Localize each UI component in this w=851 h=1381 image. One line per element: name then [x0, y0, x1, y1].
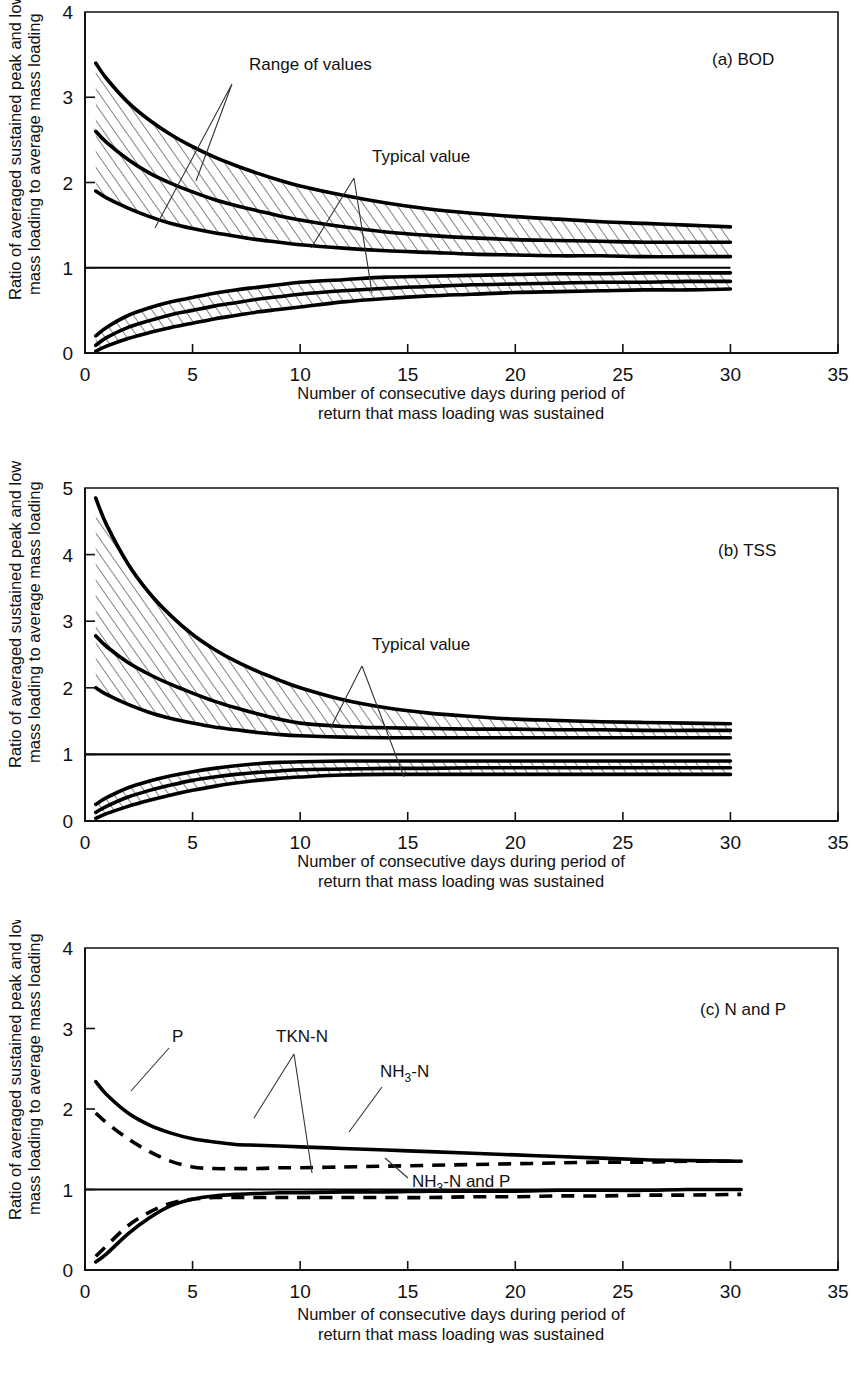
- x-tick-label: 35: [827, 832, 848, 853]
- annotation-range-of-values-label: Range of values: [249, 55, 372, 74]
- range-band-peak-b: [96, 498, 731, 738]
- leader-line-nh3-n: [349, 1087, 382, 1132]
- annotation-nh3-n-label: NH3-N: [380, 1062, 429, 1085]
- x-tick-label: 25: [612, 364, 633, 385]
- y-tick-label: 0: [62, 343, 73, 364]
- x-tick-label: 25: [612, 832, 633, 853]
- x-axis-caption-b: Number of consecutive days during period…: [297, 852, 625, 890]
- nh3-n-and-p-base: NH: [412, 1172, 437, 1191]
- x-axis-caption-line2-b: return that mass loading was sustained: [318, 872, 604, 890]
- y-axis-label-line2-c: mass loading to average mass loading: [25, 933, 43, 1215]
- annotation-typical-value-label-a: Typical value: [372, 147, 470, 166]
- annotation-tkn-n-label: TKN-N: [276, 1027, 328, 1046]
- y-tick-label: 2: [62, 1099, 73, 1120]
- x-axis-caption-line1-c: Number of consecutive days during period…: [297, 1305, 625, 1323]
- chart-svg-b: 05101520253035 012345 Typical value (b) …: [0, 460, 851, 920]
- nh3-n-base: NH: [380, 1062, 405, 1081]
- nh3-n-and-p-low-curve-c: [96, 1194, 741, 1256]
- x-tick-label: 10: [290, 364, 311, 385]
- annotation-typical-value-label-b: Typical value: [372, 635, 470, 654]
- leader-line-p: [131, 1048, 169, 1091]
- x-tick-label: 35: [827, 364, 848, 385]
- y-axis-label-a: Ratio of averaged sustained peak and low…: [6, 0, 43, 300]
- x-tick-label: 25: [612, 1281, 633, 1302]
- tkn-n-peak-curve-c: [96, 1082, 741, 1162]
- plot-frame-c: [85, 948, 838, 1270]
- y-axis-ticks-c: 01234: [62, 938, 95, 1281]
- y-tick-label: 3: [62, 611, 73, 632]
- y-axis-label-line2-a: mass loading to average mass loading: [25, 13, 43, 295]
- x-axis-caption-line2-c: return that mass loading was sustained: [318, 1325, 604, 1343]
- figure-root: 05101520253035 01234 Range of values Typ…: [0, 0, 851, 1381]
- y-tick-label: 2: [62, 173, 73, 194]
- annotation-nh3-n-c: NH3-N: [349, 1062, 429, 1132]
- y-tick-label: 3: [62, 1019, 73, 1040]
- chart-svg-c: 05101520253035 01234 P TKN-N NH3-N NH3-N…: [0, 920, 851, 1381]
- y-axis-label-line1-b: Ratio of averaged sustained peak and low: [6, 461, 24, 768]
- x-tick-label: 5: [187, 832, 198, 853]
- chart-panel-c: 05101520253035 01234 P TKN-N NH3-N NH3-N…: [0, 920, 851, 1380]
- nh3-n-tail: -N: [411, 1062, 429, 1081]
- y-tick-label: 4: [62, 2, 73, 23]
- panel-tag-a: (a) BOD: [712, 50, 774, 69]
- x-tick-label: 20: [505, 1281, 526, 1302]
- x-axis-ticks-a: 05101520253035: [80, 344, 849, 385]
- y-tick-label: 3: [62, 87, 73, 108]
- y-tick-label: 1: [62, 744, 73, 765]
- x-axis-ticks-c: 05101520253035: [80, 1261, 849, 1302]
- x-tick-label: 0: [80, 832, 91, 853]
- x-axis-ticks-b: 05101520253035: [80, 812, 849, 853]
- x-axis-caption-line2-a: return that mass loading was sustained: [318, 404, 604, 422]
- chart-svg-a: 05101520253035 01234 Range of values Typ…: [0, 0, 851, 460]
- y-axis-label-line1-a: Ratio of averaged sustained peak and low: [6, 0, 24, 300]
- y-tick-label: 4: [62, 938, 73, 959]
- y-axis-label-c: Ratio of averaged sustained peak and low…: [6, 920, 43, 1220]
- leader-line-tkn-n: [254, 1054, 312, 1173]
- y-axis-ticks-b: 012345: [62, 478, 95, 832]
- panel-tag-b: (b) TSS: [718, 541, 776, 560]
- x-axis-caption-line1-a: Number of consecutive days during period…: [297, 384, 625, 402]
- panel-tag-c: (c) N and P: [700, 1000, 786, 1019]
- y-axis-ticks-a: 01234: [62, 2, 95, 364]
- x-tick-label: 5: [187, 364, 198, 385]
- hatched-range-bands-b: [96, 498, 731, 818]
- annotation-tkn-n-c: TKN-N: [254, 1027, 328, 1173]
- x-axis-caption-c: Number of consecutive days during period…: [297, 1305, 625, 1343]
- y-axis-label-line2-b: mass loading to average mass loading: [25, 481, 43, 763]
- y-tick-label: 0: [62, 1260, 73, 1281]
- x-tick-label: 15: [397, 364, 418, 385]
- x-tick-label: 30: [720, 832, 741, 853]
- x-tick-label: 35: [827, 1281, 848, 1302]
- x-tick-label: 10: [290, 832, 311, 853]
- chart-panel-a: 05101520253035 01234 Range of values Typ…: [0, 0, 851, 460]
- x-tick-label: 30: [720, 364, 741, 385]
- x-tick-label: 15: [397, 1281, 418, 1302]
- y-tick-label: 5: [62, 478, 73, 499]
- x-tick-label: 0: [80, 364, 91, 385]
- y-tick-label: 2: [62, 678, 73, 699]
- y-tick-label: 4: [62, 545, 73, 566]
- hatched-range-bands-a: [96, 63, 731, 351]
- leader-line-nh3-n-and-p: [385, 1158, 408, 1178]
- x-tick-label: 20: [505, 364, 526, 385]
- x-tick-label: 15: [397, 832, 418, 853]
- x-axis-caption-a: Number of consecutive days during period…: [297, 384, 625, 422]
- x-tick-label: 30: [720, 1281, 741, 1302]
- annotation-p-label: P: [172, 1027, 183, 1046]
- x-tick-label: 20: [505, 832, 526, 853]
- chart-panel-b: 05101520253035 012345 Typical value (b) …: [0, 460, 851, 920]
- nh3-n-and-p-tail: -N and P: [443, 1172, 510, 1191]
- x-tick-label: 5: [187, 1281, 198, 1302]
- y-axis-label-line1-c: Ratio of averaged sustained peak and low: [6, 920, 24, 1220]
- annotation-p-c: P: [131, 1027, 183, 1091]
- x-axis-caption-line1-b: Number of consecutive days during period…: [297, 852, 625, 870]
- x-tick-label: 10: [290, 1281, 311, 1302]
- y-tick-label: 0: [62, 811, 73, 832]
- plot-axes-c: [85, 948, 838, 1270]
- x-tick-label: 0: [80, 1281, 91, 1302]
- y-tick-label: 1: [62, 258, 73, 279]
- y-tick-label: 1: [62, 1180, 73, 1201]
- y-axis-label-b: Ratio of averaged sustained peak and low…: [6, 461, 43, 768]
